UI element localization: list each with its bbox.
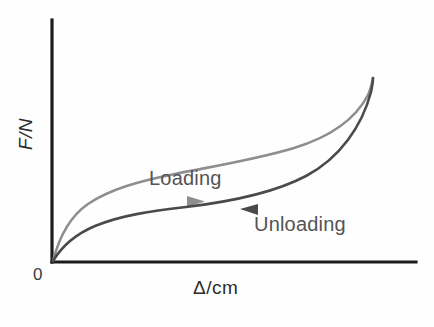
unloading-curve-label: Unloading (254, 213, 346, 236)
force-extension-hysteresis-figure: F/N Δ/cm 0 Loading Unloading (0, 0, 434, 327)
x-axis-label: Δ/cm (193, 277, 238, 299)
loading-curve-label: Loading (149, 167, 222, 190)
origin-label: 0 (33, 265, 42, 285)
y-axis-label: F/N (15, 104, 37, 164)
